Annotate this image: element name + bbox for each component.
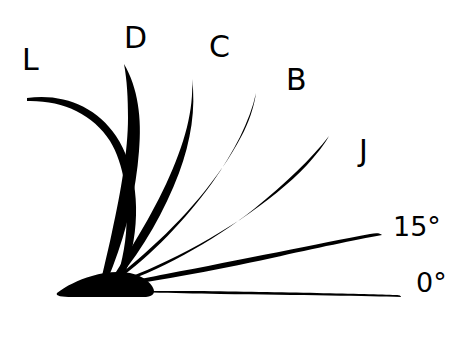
curl-label-c: C xyxy=(209,32,230,62)
curl-label-b: B xyxy=(286,65,307,95)
lash-curve-c xyxy=(103,79,193,292)
curl-label-l: L xyxy=(22,45,39,75)
angle-label-0: 0° xyxy=(416,269,447,296)
lash-curl-diagram: L D C B J 15° 0° xyxy=(0,0,467,342)
curl-label-j: J xyxy=(359,136,368,166)
lash-fan-graphic xyxy=(0,0,467,342)
curl-label-d: D xyxy=(124,23,147,53)
angle-label-15: 15° xyxy=(393,213,441,240)
